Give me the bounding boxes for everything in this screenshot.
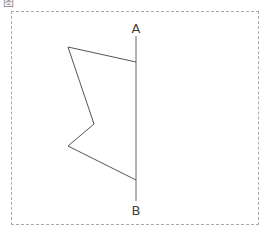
label-a: A (132, 21, 141, 36)
label-b: B (132, 203, 141, 218)
half-shape-outline (68, 47, 136, 180)
diagram-canvas: A B (0, 0, 271, 238)
